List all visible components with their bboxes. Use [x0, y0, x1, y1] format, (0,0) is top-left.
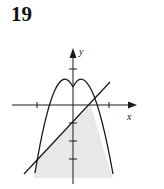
x-axis-label: x: [126, 111, 132, 122]
y-axis-label: y: [78, 46, 84, 57]
x-axis-arrow-icon: [128, 102, 137, 109]
graph-diagram: y x: [0, 0, 164, 189]
y-axis-arrow-icon: [70, 48, 77, 58]
